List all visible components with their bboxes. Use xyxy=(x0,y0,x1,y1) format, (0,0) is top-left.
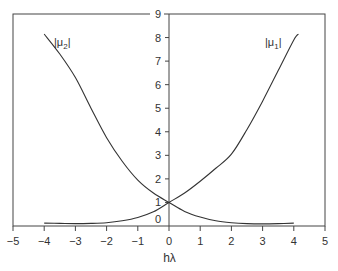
x-tick-label: 3 xyxy=(260,235,266,247)
x-tick-label: 5 xyxy=(322,235,328,247)
y-tick-label: 4 xyxy=(155,126,161,138)
y-tick-label: 2 xyxy=(155,173,161,185)
series-mu1-line xyxy=(44,34,298,224)
y-tick-label: 1 xyxy=(155,196,161,208)
x-tick-label: −3 xyxy=(69,235,82,247)
x-tick-label: −4 xyxy=(38,235,51,247)
x-tick-label: 0 xyxy=(166,235,172,247)
line-chart: −5−4−3−2−1012345 0123456789 |μ1||μ2| hλ xyxy=(0,0,338,271)
y-tick-label: 5 xyxy=(155,102,161,114)
x-axis: −5−4−3−2−1012345 xyxy=(7,226,328,247)
x-tick-label: 4 xyxy=(291,235,297,247)
x-tick-label: −1 xyxy=(132,235,145,247)
x-tick-label: −2 xyxy=(100,235,113,247)
y-tick-label: 8 xyxy=(155,32,161,44)
x-tick-label: −5 xyxy=(7,235,20,247)
x-tick-label: 2 xyxy=(228,235,234,247)
y-tick-label: 7 xyxy=(155,55,161,67)
x-tick-label: 1 xyxy=(197,235,203,247)
series-mu1-label: |μ1| xyxy=(265,36,282,51)
x-axis-label: hλ xyxy=(163,251,176,265)
y-tick-label: 0 xyxy=(155,213,161,225)
y-tick-label: 9 xyxy=(155,8,161,20)
series-group: |μ1||μ2| xyxy=(44,34,298,224)
y-tick-label: 3 xyxy=(155,149,161,161)
y-tick-label: 6 xyxy=(155,79,161,91)
